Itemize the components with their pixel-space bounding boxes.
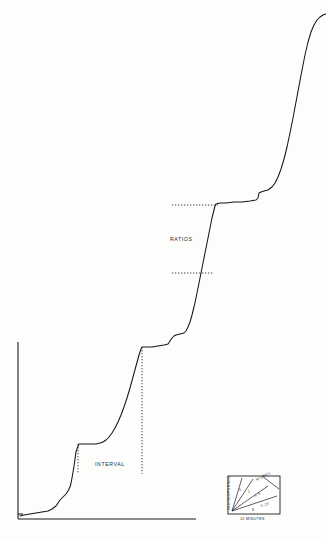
rate-key-y-axis-label: 500 RESPONSES [227,476,231,510]
rate-key-inset: 5 1 0.5 0.25 R's/SEC 500 RESPONSES 10 MI… [227,471,280,521]
rate-key-x-axis-label: 10 MINUTES [240,517,265,521]
ratios-label: RATIOS [170,236,193,242]
rate-label-5: 5 [239,488,242,492]
cumulative-record-figure: INTERVAL RATIOS 5 1 0.5 0.25 R's/SEC 500… [0,0,326,540]
record-canvas: INTERVAL RATIOS 5 1 0.5 0.25 R's/SEC 500… [0,0,326,540]
interval-label: INTERVAL [95,461,125,467]
rate-label-1: 1 [248,490,251,494]
cumulative-response-curve [20,14,326,516]
